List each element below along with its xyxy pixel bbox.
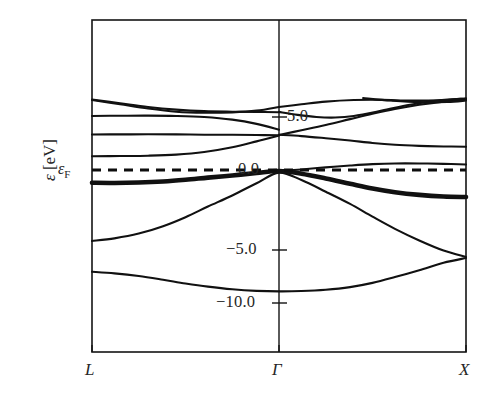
y-axis-units: [eV] [40,139,59,174]
fermi-level-label: εF [58,160,70,180]
band-curve [92,136,279,157]
xtick-label-X: X [459,360,469,380]
ytick-label-5: 5.0 [287,106,308,126]
xtick-label-L: L [85,360,94,380]
xtick-label-gamma: Γ [272,360,282,380]
y-axis-symbol: ε [40,174,59,181]
band-curve [92,116,279,130]
fermi-subscript: F [64,168,70,180]
ytick-label-0: 0.0 [238,159,259,179]
band-curve [92,134,279,135]
band-structure-figure: ε [eV] εF 5.0 0.0 −5.0 −10.0 L Γ X [0,0,500,406]
ytick-label-minus10: −10.0 [216,292,255,312]
band-structure-plot [0,0,500,406]
band-curve [279,135,466,147]
y-axis-label: ε [eV] [40,80,60,240]
ytick-label-minus5: −5.0 [226,239,257,259]
